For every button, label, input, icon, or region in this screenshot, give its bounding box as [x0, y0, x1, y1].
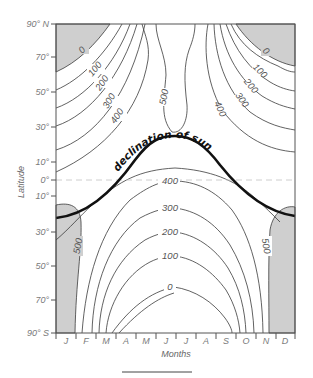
svg-text:400: 400 — [162, 175, 179, 186]
svg-text:A: A — [202, 336, 209, 346]
shaded-region-south-right — [269, 207, 295, 333]
contour-labels-south-center: 400 300 200 100 0 — [158, 175, 180, 292]
svg-text:300: 300 — [162, 202, 179, 213]
svg-text:30°: 30° — [35, 227, 49, 237]
contour-n-500-center — [156, 24, 195, 132]
svg-text:0: 0 — [167, 281, 173, 292]
svg-text:90° N: 90° N — [26, 19, 49, 29]
y-axis-title: Latitude — [16, 166, 26, 198]
svg-text:100: 100 — [251, 61, 270, 80]
svg-text:200: 200 — [161, 226, 179, 237]
svg-text:M: M — [102, 336, 110, 346]
contour-labels-north-left: 0 100 200 300 400 — [76, 43, 127, 125]
svg-text:0°: 0° — [40, 175, 49, 185]
svg-text:J: J — [183, 336, 189, 346]
svg-text:J: J — [63, 336, 69, 346]
svg-text:300: 300 — [233, 90, 252, 110]
svg-text:50°: 50° — [35, 87, 49, 97]
svg-text:70°: 70° — [35, 295, 49, 305]
svg-text:30°: 30° — [35, 122, 49, 132]
x-axis-title: Months — [161, 349, 191, 359]
contour-s-100 — [106, 256, 240, 333]
y-axis-ticks — [51, 24, 56, 333]
svg-text:70°: 70° — [35, 52, 49, 62]
svg-text:M: M — [142, 336, 150, 346]
svg-text:N: N — [263, 336, 270, 346]
svg-text:S: S — [223, 336, 229, 346]
insolation-contour-chart: 90° N 70° 50° 30° 10° 0° 10° 30° 50° 70°… — [0, 0, 313, 378]
x-axis-ticks — [56, 333, 295, 339]
svg-text:10°: 10° — [35, 157, 49, 167]
svg-text:A: A — [122, 336, 129, 346]
svg-text:J: J — [163, 336, 169, 346]
shaded-region-south-left — [56, 204, 81, 333]
svg-text:90° S: 90° S — [27, 328, 49, 338]
svg-text:100: 100 — [162, 250, 179, 261]
y-axis-labels: 90° N 70° 50° 30° 10° 0° 10° 30° 50° 70°… — [26, 19, 49, 338]
svg-text:50°: 50° — [35, 261, 49, 271]
svg-text:O: O — [242, 336, 249, 346]
svg-text:10°: 10° — [35, 191, 49, 201]
declination-label: declination of sun — [110, 128, 215, 173]
svg-text:F: F — [83, 336, 89, 346]
svg-text:D: D — [282, 336, 289, 346]
